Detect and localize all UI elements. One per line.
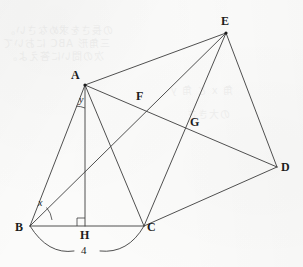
vertex-label-E: E: [221, 15, 229, 27]
segment-AE: [85, 33, 226, 85]
segment-CE: [144, 33, 226, 226]
angle-label-x: x: [38, 198, 42, 208]
vertex-label-F: F: [136, 90, 143, 102]
vertex-label-H: H: [80, 229, 89, 241]
vertex-dot-A: [83, 83, 86, 86]
measure-arc-right: [100, 226, 144, 251]
vertex-dot-E: [224, 31, 227, 34]
measure-arc-left: [30, 226, 74, 251]
angle-marker-group: [47, 106, 86, 226]
right-angle-marker: [77, 218, 85, 226]
segment-ED: [226, 33, 277, 167]
segment-BE: [30, 33, 226, 226]
angle-arc-y: [76, 106, 85, 108]
vertex-label-B: B: [15, 221, 23, 233]
angle-label-y: y: [79, 95, 83, 105]
vertex-label-G: G: [190, 116, 199, 128]
vertex-label-A: A: [71, 69, 80, 81]
segments-group: [30, 33, 277, 226]
measure-label-bc: 4: [81, 245, 87, 256]
segment-CD: [144, 167, 277, 226]
geometry-figure: の長さを求めなさい。 三角形 ABC において 次の問いに答えよ。 角 x と …: [0, 0, 303, 267]
vertex-label-C: C: [147, 221, 156, 233]
vertex-label-D: D: [281, 161, 290, 173]
